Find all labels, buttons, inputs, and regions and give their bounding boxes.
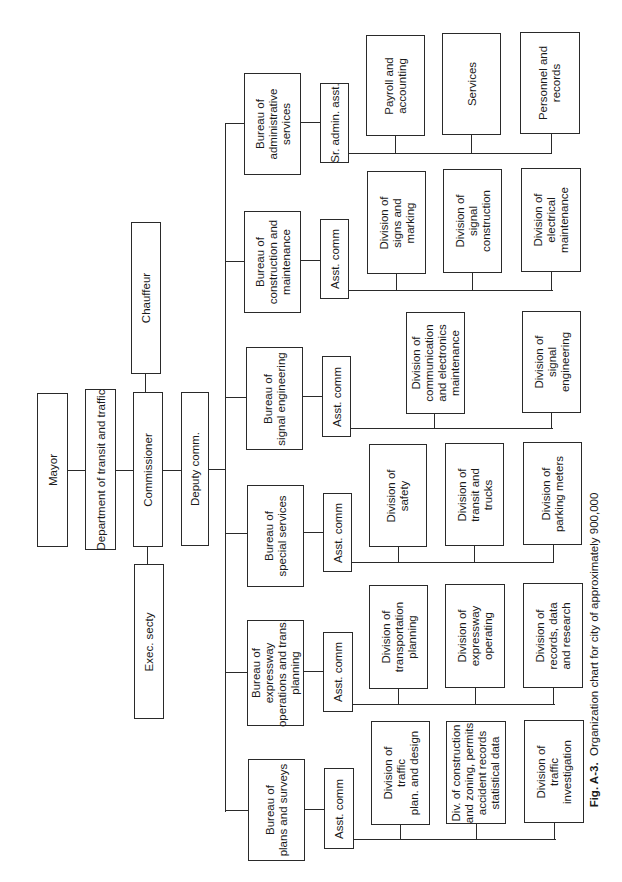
- connector: [116, 470, 133, 471]
- division-label: Division of transportation planning: [379, 602, 418, 672]
- assistant-label: Asst. comm: [331, 502, 344, 562]
- bureau-label: Bureau of plans and surveys: [264, 764, 290, 857]
- division-label: Payroll and accounting: [383, 57, 409, 115]
- division-box: Division of expressway operating: [445, 584, 505, 688]
- division-label: Division of signal construction: [453, 190, 492, 252]
- connector: [551, 133, 552, 154]
- assistant-box: Asst. comm: [320, 219, 349, 299]
- department-label: Department of transit and traffic: [94, 389, 107, 550]
- connector: [471, 134, 472, 154]
- connector: [226, 533, 247, 534]
- assistant-label: Asst. comm: [328, 229, 341, 289]
- connector: [472, 273, 473, 291]
- bureau-special-services: Bureau of special services: [247, 485, 304, 587]
- division-box: Division of electrical maintenance: [521, 168, 581, 272]
- bureau-signal-engineering: Bureau of signal engineering: [246, 347, 303, 450]
- division-label: Division of transit and trucks: [455, 468, 494, 522]
- connector: [349, 153, 552, 154]
- bureau-expressway-operations: Bureau of expressway operations and tran…: [247, 620, 304, 726]
- division-box: Division of records, data and research: [523, 583, 583, 688]
- division-label: Division of expressway operating: [456, 606, 495, 667]
- connector: [352, 562, 554, 563]
- division-label: Division of traffic investigation: [535, 740, 574, 804]
- chauffeur-box: Chauffeur: [131, 222, 161, 374]
- division-box: Division of parking meters: [523, 442, 582, 545]
- assistant-box: Asst. comm: [324, 768, 354, 849]
- connector: [147, 547, 148, 564]
- division-box: Division of transit and trucks: [445, 443, 504, 546]
- connector: [301, 260, 320, 261]
- connector: [225, 123, 244, 124]
- division-box: Division of transportation planning: [369, 585, 428, 689]
- connector: [303, 396, 322, 397]
- connector: [304, 532, 323, 533]
- connector: [551, 412, 552, 429]
- division-label: Division of communication and electronic…: [410, 324, 462, 401]
- division-label: Services: [465, 62, 478, 106]
- connector: [475, 688, 476, 705]
- division-box: Division of traffic plan. and design: [371, 721, 430, 825]
- division-box: Division of safety: [369, 444, 427, 547]
- connector: [396, 274, 397, 291]
- connector: [163, 470, 181, 471]
- division-box: Div. of construction and zoning, permits…: [446, 721, 506, 824]
- bureau-plans-surveys: Bureau of plans and surveys: [248, 759, 305, 861]
- assistant-box: Asst. comm: [323, 632, 353, 712]
- assistant-box: Sr. admin. asst.: [320, 83, 349, 163]
- figure-label: Fig. A-3.: [588, 762, 600, 807]
- division-box: Division of signs and marking: [367, 171, 426, 274]
- division-label: Division of signal engineering: [532, 332, 571, 392]
- connector: [474, 545, 475, 563]
- connector: [305, 809, 324, 810]
- connector: [398, 546, 399, 563]
- assistant-label: Sr. admin. asst.: [328, 83, 341, 162]
- division-label: Division of parking meters: [540, 455, 566, 531]
- connector: [434, 413, 435, 429]
- division-box: Services: [442, 33, 501, 135]
- trunk-line: [225, 123, 226, 812]
- bureau-label: Bureau of administrative services: [253, 89, 292, 160]
- commissioner-box: Commissioner: [133, 392, 163, 547]
- division-label: Div. of construction and zoning, permits…: [450, 722, 502, 822]
- connector: [304, 671, 323, 672]
- connector: [400, 824, 401, 840]
- assistant-label: Asst. comm: [330, 366, 343, 426]
- deputy-comm-label: Deputy comm.: [189, 432, 202, 506]
- connector: [553, 544, 554, 563]
- division-box: Personnel and records: [520, 32, 580, 134]
- assistant-label: Asst. comm: [332, 642, 345, 702]
- division-box: Payroll and accounting: [366, 35, 425, 136]
- connector: [476, 823, 477, 840]
- bureau-construction-maintenance: Bureau of construction and maintenance: [244, 211, 301, 313]
- figure-caption: Fig. A-3. Organization chart for city of…: [588, 493, 600, 808]
- department-box: Department of transit and traffic: [85, 389, 116, 550]
- division-label: Division of signs and marking: [377, 196, 416, 249]
- mayor-box: Mayor: [37, 393, 68, 547]
- connector: [398, 689, 399, 705]
- connector: [395, 136, 396, 154]
- connector: [226, 810, 248, 811]
- assistant-label: Asst. comm: [333, 778, 346, 838]
- exec-secty-box: Exec. secty: [134, 564, 164, 719]
- bureau-label: Bureau of special services: [263, 495, 289, 576]
- division-box: Division of traffic investigation: [524, 720, 584, 823]
- exec-secty-label: Exec. secty: [143, 612, 156, 671]
- division-box: Division of signal construction: [443, 169, 502, 273]
- division-label: Personnel and records: [537, 46, 563, 120]
- connector: [354, 839, 556, 840]
- division-label: Division of traffic plan. and design: [381, 731, 420, 815]
- commissioner-label: Commissioner: [142, 433, 155, 507]
- connector: [551, 272, 552, 291]
- connector: [145, 374, 146, 392]
- division-box: Division of communication and electronic…: [406, 312, 465, 414]
- division-label: Division of electrical maintenance: [532, 187, 571, 253]
- bureau-label: Bureau of expressway operations and tran…: [250, 619, 302, 727]
- connector: [554, 822, 555, 840]
- mayor-label: Mayor: [46, 454, 59, 486]
- division-label: Division of records, data and research: [534, 602, 573, 669]
- bureau-label: Bureau of signal engineering: [262, 352, 288, 445]
- connector: [225, 261, 244, 262]
- connector: [209, 469, 226, 470]
- assistant-box: Asst. comm: [322, 356, 351, 437]
- assistant-box: Asst. comm: [323, 493, 352, 572]
